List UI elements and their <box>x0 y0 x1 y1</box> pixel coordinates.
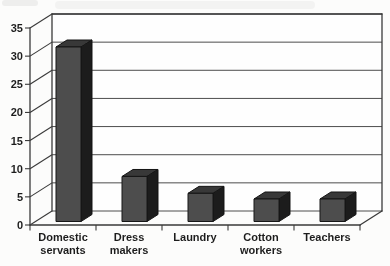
bar-front-face-dress-makers <box>122 176 147 221</box>
category-label-dress-makers-line1: Dress <box>114 231 145 243</box>
bar-laundry <box>188 186 224 221</box>
y-tick-label-5: 5 <box>17 191 23 203</box>
bar-front-face-domestic-servants <box>56 47 81 221</box>
bar-dress-makers <box>122 169 158 221</box>
bar-front-face-laundry <box>188 193 213 221</box>
bar-teachers <box>320 192 356 222</box>
scan-artifact <box>55 1 315 9</box>
category-label-domestic-servants-line1: Domestic <box>38 231 88 243</box>
bar-front-face-teachers <box>320 199 345 222</box>
y-tick-label-0: 0 <box>17 219 23 231</box>
y-tick-label-25: 25 <box>11 78 23 90</box>
category-label-cotton-workers-line1: Cotton <box>243 231 279 243</box>
category-label-laundry-line1: Laundry <box>173 231 217 243</box>
chart-canvas: 05101520253035DomesticservantsDressmaker… <box>0 0 390 266</box>
scanned-page: 05101520253035DomesticservantsDressmaker… <box>0 0 390 266</box>
y-tick-label-15: 15 <box>11 135 23 147</box>
y-tick-label-20: 20 <box>11 106 23 118</box>
chart-root: 05101520253035DomesticservantsDressmaker… <box>0 0 390 266</box>
bar-cotton-workers <box>254 192 290 222</box>
category-label-cotton-workers-line2: workers <box>239 244 282 256</box>
category-label-teachers-line1: Teachers <box>303 231 351 243</box>
bar-front-face-cotton-workers <box>254 199 279 222</box>
y-tick-label-10: 10 <box>11 163 23 175</box>
bar-domestic-servants <box>56 40 92 221</box>
category-label-domestic-servants-line2: servants <box>40 244 85 256</box>
y-tick-label-35: 35 <box>11 22 23 34</box>
y-tick-label-30: 30 <box>11 50 23 62</box>
scan-artifact <box>2 0 38 6</box>
back-wall <box>52 14 382 211</box>
bar-side-face-domestic-servants <box>81 40 92 221</box>
bar-chart-3d-figure: 05101520253035DomesticservantsDressmaker… <box>0 0 390 266</box>
category-label-dress-makers-line2: makers <box>110 244 149 256</box>
bar-side-face-dress-makers <box>147 169 158 221</box>
